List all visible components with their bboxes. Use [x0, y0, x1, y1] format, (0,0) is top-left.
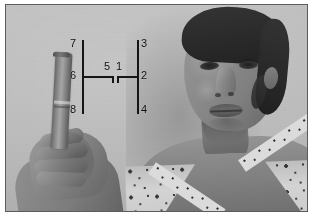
photo-frame: 12345678	[5, 4, 308, 212]
chin-shading	[206, 118, 246, 134]
screenshot-root: 12345678	[0, 0, 312, 218]
photograph: 12345678	[6, 5, 307, 211]
nostril-right	[228, 92, 234, 96]
cylindrical-object-tip	[53, 52, 70, 58]
nostril-left	[215, 93, 221, 97]
